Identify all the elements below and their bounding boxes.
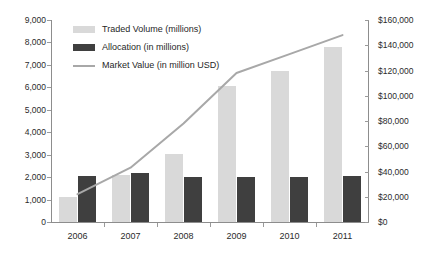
- chart-legend: Traded Volume (millions) Allocation (in …: [73, 22, 219, 76]
- legend-item-allocation: Allocation (in millions): [73, 40, 219, 55]
- x-axis-label-2007: 2007: [120, 232, 140, 241]
- x-axis-label-2010: 2010: [279, 232, 299, 241]
- chart-container: 01,0002,0003,0004,0005,0006,0007,0008,00…: [0, 0, 437, 259]
- legend-swatch-icon-allocation: [73, 44, 95, 51]
- x-axis-label-2008: 2008: [173, 232, 193, 241]
- x-axis-label-2006: 2006: [67, 232, 87, 241]
- legend-label-traded-volume: Traded Volume (millions): [102, 25, 201, 34]
- x-axis-label-2011: 2011: [333, 232, 352, 241]
- legend-swatch-icon-traded-volume: [73, 26, 95, 33]
- legend-label-allocation: Allocation (in millions): [102, 43, 189, 52]
- x-axis-label-2009: 2009: [226, 232, 246, 241]
- legend-item-traded-volume: Traded Volume (millions): [73, 22, 219, 37]
- legend-item-market-value: Market Value (in million USD): [73, 58, 219, 73]
- legend-line-icon-market-value: [73, 65, 95, 67]
- legend-label-market-value: Market Value (in million USD): [102, 61, 219, 70]
